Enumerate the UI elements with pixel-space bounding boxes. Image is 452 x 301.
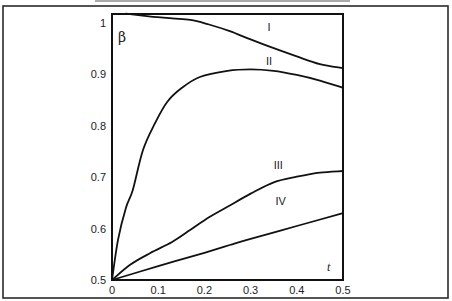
x-axis-ticks: 00.10.20.30.40.5: [109, 284, 351, 296]
y-tick-label: 1: [100, 17, 106, 29]
x-tick-label: 0.2: [197, 284, 212, 296]
series-line-IV: [112, 213, 343, 280]
outer-frame: [3, 6, 448, 298]
y-tick-label: 0.5: [91, 274, 106, 286]
series-line-III: [112, 171, 343, 280]
y-axis-label: β: [118, 29, 126, 45]
y-axis-ticks: 0.50.60.70.80.91: [91, 17, 106, 286]
series-label-III: III: [274, 159, 283, 171]
x-axis-label: t: [327, 260, 331, 274]
y-tick-label: 0.7: [91, 171, 106, 183]
x-tick-label: 0: [109, 284, 115, 296]
x-tick-label: 0.1: [151, 284, 166, 296]
x-tick-label: 0.3: [243, 284, 258, 296]
y-tick-label: 0.6: [91, 223, 106, 235]
y-tick-label: 0.9: [91, 68, 106, 80]
series-label-IV: IV: [275, 195, 286, 207]
series-label-II: II: [266, 55, 272, 67]
x-tick-label: 0.5: [335, 284, 350, 296]
series-label-I: I: [268, 21, 271, 33]
y-tick-label: 0.8: [91, 120, 106, 132]
series-line-I: [126, 14, 343, 68]
x-tick-label: 0.4: [289, 284, 304, 296]
curves: [112, 14, 343, 280]
chart: 00.10.20.30.40.5 0.50.60.70.80.91 IIIIII…: [0, 0, 452, 301]
plot-area: [112, 14, 343, 280]
